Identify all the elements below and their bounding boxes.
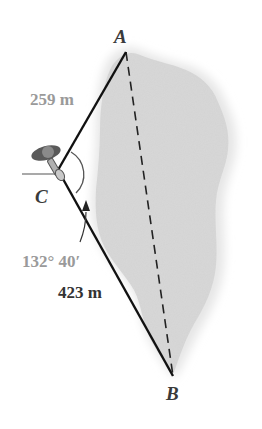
diagram-canvas — [0, 0, 262, 429]
point-label-B: B — [166, 384, 179, 403]
surveying-diagram: A C B 259 m 132° 40′ 423 m — [0, 0, 262, 429]
length-label-CA: 259 m — [30, 91, 74, 108]
arrowhead-icon — [82, 200, 90, 211]
transit-instrument-icon — [30, 142, 67, 182]
point-label-C: C — [35, 187, 48, 206]
angle-arc — [71, 152, 84, 193]
lake-texture — [96, 53, 229, 372]
point-label-A: A — [114, 27, 127, 46]
length-label-CB: 423 m — [58, 284, 102, 301]
angle-label-ACB: 132° 40′ — [22, 253, 80, 270]
